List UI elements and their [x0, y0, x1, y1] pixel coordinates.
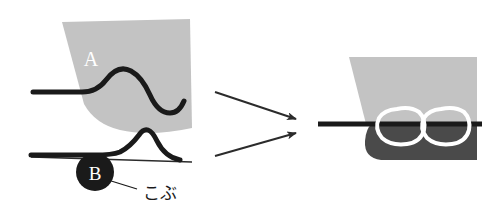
thin-reference-line: [31, 157, 192, 162]
panel-b: B: [31, 130, 192, 191]
annotation-leader-line: [108, 180, 137, 189]
panel-a-label: A: [84, 48, 99, 70]
kobu-annotation: こぶ: [143, 183, 177, 203]
panel-a: A: [33, 19, 192, 133]
gray-sheet-a: [62, 19, 192, 133]
arrow-upper: [215, 92, 296, 119]
arrow-lower: [215, 133, 296, 156]
gray-sheet-result: [349, 57, 477, 124]
panel-b-label: B: [89, 163, 102, 184]
figure-root: A B こぶ: [0, 0, 504, 222]
arrow-group: [215, 92, 296, 156]
panel-result: [318, 57, 482, 160]
diagram-canvas: A B こぶ: [0, 0, 504, 222]
bump-curve: [31, 130, 180, 160]
